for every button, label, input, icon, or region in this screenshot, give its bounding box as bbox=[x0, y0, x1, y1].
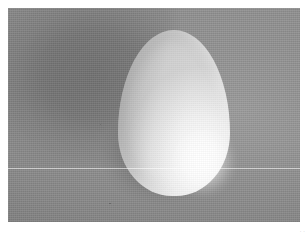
dust-speck bbox=[100, 124, 101, 125]
watermark: · · bbox=[300, 228, 305, 235]
photo-frame: · · bbox=[0, 0, 307, 236]
dust-speck bbox=[109, 203, 111, 204]
photograph-canvas bbox=[8, 8, 300, 222]
